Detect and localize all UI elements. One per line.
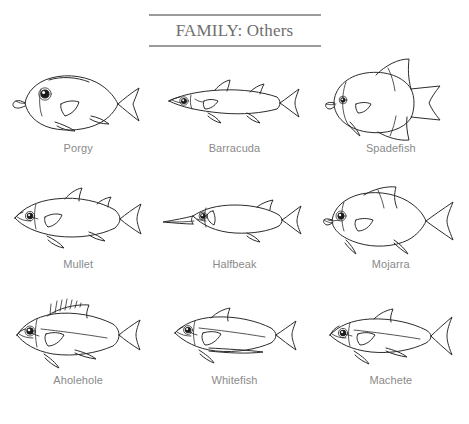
fish-label: Machete <box>369 374 412 386</box>
halfbeak-fish-illustration <box>159 172 309 260</box>
barracuda-fish-illustration <box>159 56 309 144</box>
fish-label: Whitefish <box>211 374 257 386</box>
aholehole-fish-illustration <box>3 288 153 376</box>
fish-cell-aholehole[interactable]: Aholehole <box>0 288 156 404</box>
fish-cell-spadefish[interactable]: Spadefish <box>313 56 469 172</box>
fish-label: Barracuda <box>209 142 261 154</box>
fish-cell-mullet[interactable]: Mullet <box>0 172 156 288</box>
mojarra-fish-illustration <box>316 172 466 260</box>
fish-cell-halfbeak[interactable]: Halfbeak <box>156 172 312 288</box>
title-rule-top <box>149 14 321 16</box>
title-rule-bottom <box>149 45 321 47</box>
fish-label: Halfbeak <box>212 258 256 270</box>
fish-cell-barracuda[interactable]: Barracuda <box>156 56 312 172</box>
mullet-fish-illustration <box>3 172 153 260</box>
fish-label: Porgy <box>64 142 93 154</box>
fish-cell-porgy[interactable]: Porgy <box>0 56 156 172</box>
machete-fish-illustration <box>316 288 466 376</box>
page-title: FAMILY: Others <box>176 21 294 41</box>
fish-cell-machete[interactable]: Machete <box>313 288 469 404</box>
fish-label: Mullet <box>63 258 93 270</box>
spadefish-fish-illustration <box>316 56 466 144</box>
page-header: FAMILY: Others <box>0 0 469 47</box>
porgy-fish-illustration <box>3 56 153 144</box>
fish-cell-mojarra[interactable]: Mojarra <box>313 172 469 288</box>
fish-cell-whitefish[interactable]: Whitefish <box>156 288 312 404</box>
fish-label: Spadefish <box>366 142 416 154</box>
whitefish-fish-illustration <box>159 288 309 376</box>
fish-grid: Porgy Barracuda <box>0 56 469 404</box>
fish-label: Mojarra <box>372 258 410 270</box>
fish-label: Aholehole <box>53 374 103 386</box>
